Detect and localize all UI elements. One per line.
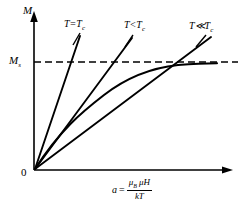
formula-variable: a [112,184,117,195]
series-1-reference-subscript: c [82,24,85,32]
origin-label: 0 [21,167,27,178]
y-axis [30,11,38,170]
magnetization-vs-field-figure: M Ms 0 T=Tc T<Tc T≪Tc a = μB μH kT [0,0,248,214]
series-line-t-much-less-than-tc [35,37,211,169]
ms-base-text: M [9,54,18,66]
series-label-t-much-less-than-tc: T≪Tc [189,21,213,34]
x-axis-arrowhead [222,166,233,173]
series-label-t-equals-tc: T=Tc [64,19,85,32]
series-line-t-equals-tc [35,36,80,169]
formula-numerator-mu-h: μH [139,177,150,187]
y-axis-tick-label-ms: Ms [9,55,21,69]
x-axis-formula: a = μB μH kT [112,178,152,201]
ms-subscript: s [18,61,21,69]
x-axis [34,166,233,173]
series-3-reference-subscript: c [210,26,213,34]
formula-fraction: μB μH kT [127,178,152,201]
formula-numerator: μB μH [127,178,152,190]
series-2-reference-subscript: c [142,25,145,33]
y-axis-label: M [23,5,32,16]
formula-equals: = [119,184,125,195]
series-curve-saturation [35,63,217,169]
series-3-relation: ≪ [195,20,205,31]
label-leader-lines [73,33,206,47]
series-label-t-less-than-tc: T<Tc [124,20,145,33]
formula-denominator: kT [133,191,146,201]
leader-line-t-less-than-tc [125,35,133,47]
formula-numerator-mu-b-subscript: B [133,183,137,189]
